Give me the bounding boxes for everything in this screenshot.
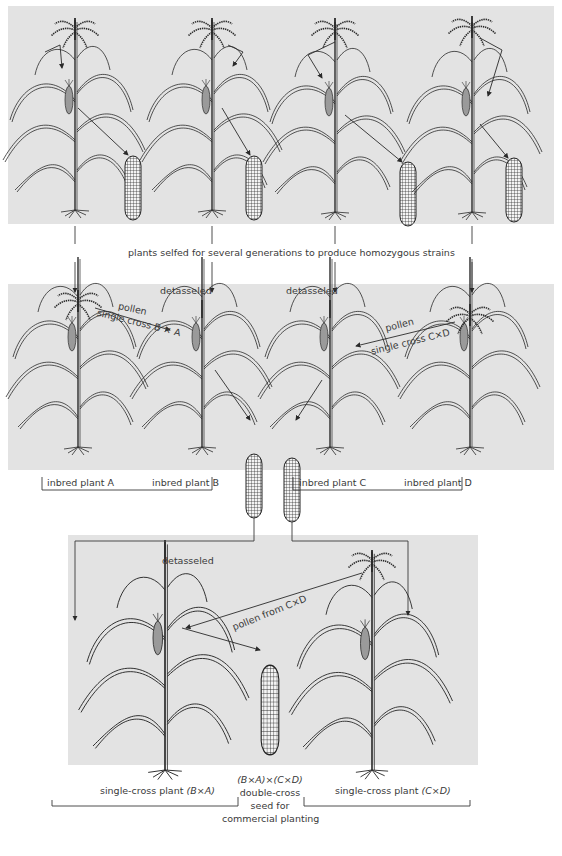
inbred-plant-c-label: inbred plant C [299,478,366,488]
detasseled-label-c: detasseled [286,286,338,296]
detasseled-label-row3: detasseled [162,556,214,566]
corn-breeding-diagram [0,0,562,856]
single-cross-plant-bxa [79,542,249,780]
row1-plants [3,16,542,226]
double-cross-line2: seed for [222,799,318,812]
inbred-plant-a-label: inbred plant A [47,478,114,488]
cob-c [400,162,416,226]
single-cross-plant-cxd [289,552,452,780]
cob-b [246,156,262,220]
bracket-bxa [52,797,238,806]
single-cross-plant-cxd-label: single-cross plant (C×D) [335,786,451,796]
inbred-plant-d [398,257,540,455]
double-cross-caption: (B×A)×(C×D) double-cross seed for commer… [222,773,318,825]
inbred-plant-d-label: inbred plant D [404,478,472,488]
detasseled-label-b: detasseled [160,286,212,296]
bxa-formula: (B×A) [186,785,214,796]
cxd-formula: (C×D) [421,785,450,796]
plant-a [3,20,145,218]
cob-d [506,158,522,222]
double-cross-line3: commercial planting [222,812,318,825]
row3-plants [79,540,453,780]
single-cross-plant-bxa-label: single-cross plant (B×A) [100,786,215,796]
inbred-plant-b-label: inbred plant B [152,478,219,488]
cob-b-x-a [246,454,262,518]
double-cross-cob [261,665,279,755]
selfing-caption: plants selfed for several generations to… [128,248,455,258]
inbred-plant-a [6,257,148,455]
double-cross-line1: double-cross [222,786,318,799]
plant-c [263,22,405,220]
double-cross-formula: (B×A)×(C×D) [222,773,318,786]
single-cross-prefix-right: single-cross plant [335,785,421,796]
bracket-cxd [304,797,470,806]
cob-a [125,156,141,220]
single-cross-prefix-left: single-cross plant [100,785,186,796]
